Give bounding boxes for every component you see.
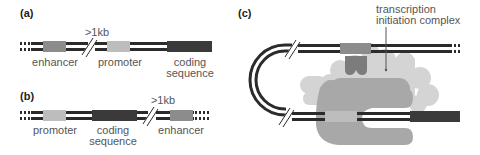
- dna-double-strand-top: [298, 44, 460, 53]
- enhancer-block: [43, 41, 66, 52]
- panel-c: (c): [238, 3, 461, 145]
- break-mark-icon: [143, 107, 158, 126]
- panel-a: (a) >1kb enhancer promoter coding sequen…: [20, 7, 214, 79]
- enhancer-promoter-diagram: (a) >1kb enhancer promoter coding sequen…: [0, 0, 480, 155]
- enhancer-block: [340, 43, 371, 54]
- distance-label: >1kb: [151, 94, 175, 106]
- distance-label: >1kb: [85, 26, 109, 38]
- promoter-block: [107, 41, 130, 52]
- promoter-block: [43, 110, 66, 121]
- enhancer-label: enhancer: [32, 56, 78, 68]
- enhancer-block: [170, 110, 193, 121]
- label-pointer-dot: [385, 69, 387, 71]
- break-mark-icon: [279, 108, 294, 127]
- complex-upper-arm: [330, 78, 410, 100]
- coding-label-line2: sequence: [89, 135, 137, 147]
- complex-label-line2: initiation complex: [376, 14, 461, 26]
- coding-label-line2: sequence: [166, 67, 214, 79]
- dna-dashed-end-icon: [20, 42, 30, 51]
- break-mark-icon: [82, 38, 97, 57]
- coding-sequence-block: [410, 111, 460, 122]
- dna-dashed-end-icon: [20, 111, 30, 120]
- dna-dashed-end-icon: [195, 111, 209, 120]
- panel-b-label: (b): [20, 90, 34, 102]
- panel-c-label: (c): [238, 7, 252, 19]
- panel-b: (b) >1kb promoter coding sequence enhanc…: [20, 90, 209, 147]
- enhancer-label: enhancer: [158, 124, 204, 136]
- promoter-label: promoter: [98, 56, 142, 68]
- promoter-label: promoter: [33, 124, 77, 136]
- panel-a-label: (a): [20, 7, 34, 19]
- coding-sequence-block: [92, 110, 137, 121]
- promoter-block: [325, 111, 357, 122]
- coding-sequence-block: [167, 41, 212, 52]
